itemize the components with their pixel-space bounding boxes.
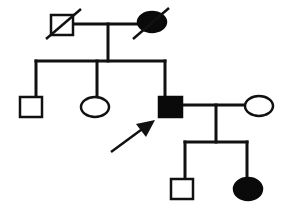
individual-II-2-female <box>81 97 109 117</box>
individual-I-2-female-affected-deceased <box>133 8 169 39</box>
individual-II-1-male <box>20 97 42 117</box>
pedigree-diagram <box>0 0 288 213</box>
individual-II-4-female-spouse <box>245 96 273 116</box>
individual-II-3-male-affected-proband <box>159 97 182 117</box>
individual-III-2-female-affected <box>234 178 262 200</box>
individual-III-1-male <box>171 179 193 199</box>
generation-3 <box>171 142 262 200</box>
proband-arrow-icon <box>111 120 155 152</box>
generation-1 <box>46 8 169 61</box>
generation-2 <box>20 61 273 152</box>
